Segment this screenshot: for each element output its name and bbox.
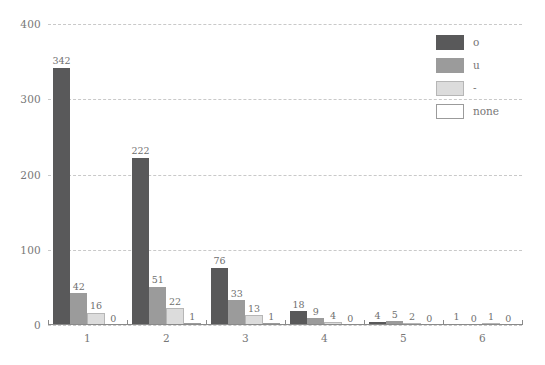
bar-u-2[interactable] <box>149 287 166 325</box>
legend-label: u <box>473 60 480 71</box>
x-axis-tick-label: 3 <box>242 332 249 344</box>
bar-value-label: 4 <box>330 311 336 321</box>
gridline <box>48 325 522 326</box>
legend-item-none[interactable]: none <box>436 100 536 123</box>
bar-value-label: 42 <box>73 282 85 292</box>
legend-label: none <box>473 106 499 117</box>
bar-value-label: 1 <box>189 312 195 322</box>
bar-value-label: 76 <box>214 256 226 266</box>
x-axis-tick <box>522 320 523 325</box>
legend-label: o <box>473 37 479 48</box>
bar-value-label: 1 <box>454 312 460 322</box>
y-axis-tick-label: 300 <box>20 93 41 105</box>
x-axis-tick <box>206 320 207 325</box>
x-axis-tick-label: 4 <box>321 332 328 344</box>
legend-item-o[interactable]: o <box>436 31 536 54</box>
bar-group: 22251221 <box>132 24 201 325</box>
bar-value-label: 1 <box>268 312 274 322</box>
x-axis-tick-label: 2 <box>163 332 170 344</box>
bar-value-label: 342 <box>53 56 71 66</box>
y-axis-tick-label: 200 <box>20 169 41 181</box>
bar-value-label: 33 <box>231 289 243 299</box>
bar-value-label: 4 <box>375 311 381 321</box>
bar-group: 34242160 <box>53 24 122 325</box>
legend-item--[interactable]: - <box>436 77 536 100</box>
bar-value-label: 0 <box>505 314 511 324</box>
bar---2[interactable] <box>166 308 183 325</box>
bar-o-4[interactable] <box>290 311 307 325</box>
bar-value-label: 0 <box>426 314 432 324</box>
bar-u-1[interactable] <box>70 293 87 325</box>
bar-value-label: 0 <box>347 314 353 324</box>
bar-o-2[interactable] <box>132 158 149 325</box>
bar-value-label: 0 <box>110 314 116 324</box>
x-axis-tick <box>364 320 365 325</box>
x-axis-tick <box>443 320 444 325</box>
bar-group: 18940 <box>290 24 359 325</box>
x-axis-tick <box>285 320 286 325</box>
bar-o-1[interactable] <box>53 68 70 325</box>
bar-chart: 0100200300400 34242160222512217633131189… <box>0 0 545 365</box>
bar-value-label: 1 <box>488 312 494 322</box>
bar-value-label: 51 <box>152 275 164 285</box>
x-axis-tick-label: 1 <box>84 332 91 344</box>
bar-value-label: 2 <box>409 312 415 322</box>
legend-swatch-icon <box>436 104 464 119</box>
legend-label: - <box>473 83 477 94</box>
legend: ou-none <box>436 31 536 123</box>
bar-group: 4520 <box>369 24 438 325</box>
bar-o-3[interactable] <box>211 268 228 325</box>
bar-value-label: 9 <box>313 307 319 317</box>
bar-value-label: 222 <box>132 146 150 156</box>
y-axis-tick-label: 100 <box>20 244 41 256</box>
y-axis-tick-label: 0 <box>34 319 41 331</box>
bar-value-label: 16 <box>90 301 102 311</box>
bar-u-3[interactable] <box>228 300 245 325</box>
y-axis-tick-label: 400 <box>20 18 41 30</box>
x-axis-tick-label: 5 <box>400 332 407 344</box>
x-axis-tick-label: 6 <box>479 332 486 344</box>
legend-swatch-icon <box>436 81 464 96</box>
y-axis-origin-tick <box>48 320 49 325</box>
legend-swatch-icon <box>436 58 464 73</box>
bar-value-label: 13 <box>248 304 260 314</box>
bar-value-label: 22 <box>169 297 181 307</box>
bar-value-label: 18 <box>293 300 305 310</box>
legend-swatch-icon <box>436 35 464 50</box>
bar-value-label: 5 <box>392 310 398 320</box>
bar-value-label: 0 <box>471 314 477 324</box>
legend-item-u[interactable]: u <box>436 54 536 77</box>
x-axis-tick <box>127 320 128 325</box>
bar-group: 7633131 <box>211 24 280 325</box>
